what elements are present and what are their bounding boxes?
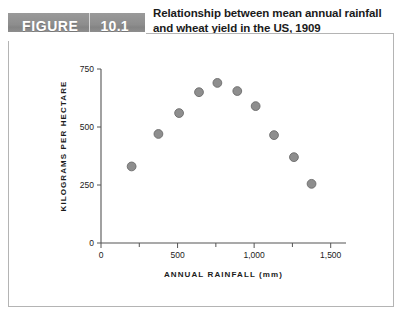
chart-frame (8, 33, 394, 307)
figure-title: Relationship between mean annual rainfal… (153, 6, 403, 35)
figure-title-line-1: Relationship between mean annual rainfal… (153, 6, 403, 21)
frame-notch (8, 32, 146, 41)
